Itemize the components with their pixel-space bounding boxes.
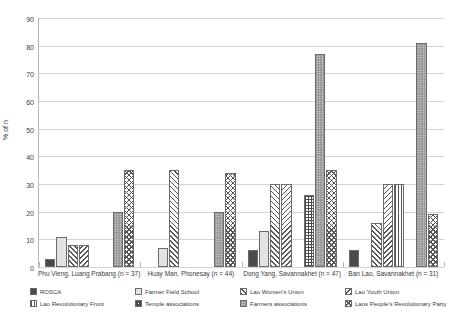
bar — [259, 231, 269, 267]
bar-groups — [39, 18, 444, 267]
bar-group — [343, 18, 444, 267]
y-axis-tick: 80 — [26, 43, 34, 50]
chart-legend: ROSCAFarmer Field SchoolLao Women's Unio… — [30, 288, 450, 312]
bar — [304, 195, 314, 267]
bar — [158, 248, 168, 267]
gridline: 0 — [39, 267, 444, 268]
legend-label: Temple associations — [145, 301, 199, 307]
bar — [214, 212, 224, 267]
legend-item: ROSCA — [30, 288, 135, 295]
bar — [45, 259, 55, 267]
legend-item: Farmers associations — [240, 300, 345, 307]
bar — [315, 54, 325, 267]
x-axis-tick-label: Huay Man, Phonesay (n = 44) — [140, 270, 241, 277]
bar-set — [242, 18, 343, 267]
legend-swatch — [30, 300, 37, 307]
bar — [394, 184, 404, 267]
bar — [225, 173, 235, 267]
bar — [248, 250, 258, 267]
bar-set — [343, 18, 444, 267]
bar — [79, 245, 89, 267]
axis-separator — [444, 262, 445, 267]
bar — [68, 245, 78, 267]
y-axis-tick: 90 — [26, 16, 34, 23]
legend-item: Lao Women's Union — [240, 288, 345, 295]
bar — [169, 170, 179, 267]
legend-swatch — [135, 288, 142, 295]
legend-swatch — [135, 300, 142, 307]
x-axis-tick-label: Ban Lao, Savannakhet (n = 31) — [343, 270, 444, 277]
legend-item: Farmer Field School — [135, 288, 240, 295]
x-axis-labels: Phu Vieng, Luang Prabang (n = 37)Huay Ma… — [38, 270, 444, 277]
bar — [383, 184, 393, 267]
bar — [371, 223, 381, 267]
bar — [270, 184, 280, 267]
legend-item: Laos People's Revolutionary Party — [345, 300, 450, 307]
bar — [326, 170, 336, 267]
bar-group — [242, 18, 343, 267]
bar-group — [140, 18, 241, 267]
y-axis-tick: 40 — [26, 154, 34, 161]
x-axis-tick-label: Phu Vieng, Luang Prabang (n = 37) — [38, 270, 140, 277]
legend-label: Farmer Field School — [145, 289, 199, 295]
legend-swatch — [30, 288, 37, 295]
legend-swatch — [240, 300, 247, 307]
bar — [428, 214, 438, 267]
bar — [416, 43, 426, 267]
y-axis-tick: 60 — [26, 99, 34, 106]
bar — [113, 212, 123, 267]
bar-set — [39, 18, 140, 267]
bar-set — [140, 18, 241, 267]
x-axis-tick-label: Dong Yang, Savannakhet (n = 47) — [242, 270, 343, 277]
legend-label: ROSCA — [40, 289, 61, 295]
y-axis-tick: 50 — [26, 126, 34, 133]
y-axis-tick: 70 — [26, 71, 34, 78]
legend-swatch — [345, 300, 352, 307]
y-axis-tick: 20 — [26, 209, 34, 216]
legend-label: Lao Revolutionary Front — [40, 301, 104, 307]
legend-swatch — [345, 288, 352, 295]
legend-label: Lao Youth Union — [355, 289, 399, 295]
legend-label: Lao Women's Union — [250, 289, 304, 295]
plot-area: 0102030405060708090 — [38, 18, 444, 268]
bar-chart: % of n 0102030405060708090 Phu Vieng, Lu… — [0, 0, 458, 327]
legend-item: Lao Youth Union — [345, 288, 450, 295]
bar — [281, 184, 291, 267]
legend-label: Laos People's Revolutionary Party — [355, 301, 447, 307]
bar — [56, 237, 66, 267]
legend-item: Temple associations — [135, 300, 240, 307]
bar — [349, 250, 359, 267]
y-axis-tick: 30 — [26, 182, 34, 189]
legend-swatch — [240, 288, 247, 295]
legend-label: Farmers associations — [250, 301, 307, 307]
y-axis-tick: 10 — [26, 237, 34, 244]
bar-group — [39, 18, 140, 267]
y-axis-label: % of n — [2, 120, 9, 140]
bar — [124, 170, 134, 267]
y-axis-tick: 0 — [30, 265, 34, 272]
legend-item: Lao Revolutionary Front — [30, 300, 135, 307]
